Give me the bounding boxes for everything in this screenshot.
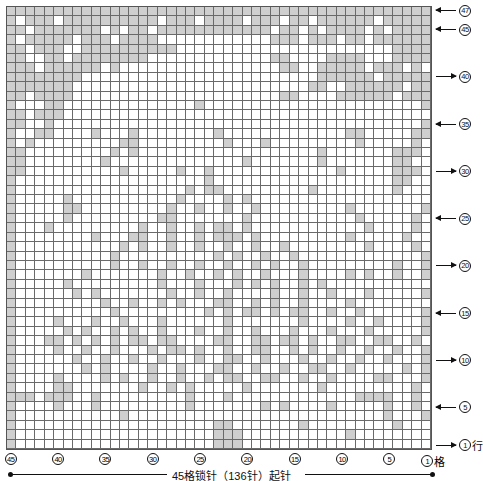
empty-cell [280,355,289,364]
filled-cell [233,16,242,25]
filled-cell [243,383,252,392]
empty-cell [337,35,346,44]
filled-cell [299,16,308,25]
filled-cell [337,346,346,355]
empty-cell [261,317,270,326]
row-label-25: 25 [436,213,471,225]
empty-cell [365,402,374,411]
empty-cell [299,63,308,72]
empty-cell [252,411,261,420]
empty-cell [45,327,54,336]
empty-cell [403,402,412,411]
empty-cell [356,167,365,176]
empty-cell [261,440,270,449]
empty-cell [92,148,101,157]
filled-cell [374,374,383,383]
empty-cell [346,167,355,176]
empty-cell [271,129,280,138]
filled-cell [7,430,16,439]
empty-cell [318,223,327,232]
filled-cell [82,16,91,25]
filled-cell [7,280,16,289]
empty-cell [195,45,204,54]
filled-cell [7,167,16,176]
empty-cell [45,346,54,355]
filled-cell [111,327,120,336]
empty-cell [403,280,412,289]
row-label-5: 5 [436,401,471,413]
filled-cell [327,7,336,16]
empty-cell [271,45,280,54]
filled-cell [337,54,346,63]
filled-cell [309,82,318,91]
empty-cell [129,289,138,298]
empty-cell [54,364,63,373]
empty-cell [384,204,393,213]
filled-cell [16,82,25,91]
empty-cell [384,167,393,176]
filled-cell [261,402,270,411]
filled-cell [26,7,35,16]
empty-cell [374,346,383,355]
empty-cell [271,411,280,420]
filled-cell [120,7,129,16]
filled-cell [139,383,148,392]
filled-cell [54,374,63,383]
empty-cell [101,26,110,35]
empty-cell [214,148,223,157]
empty-cell [393,440,402,449]
empty-cell [26,129,35,138]
filled-cell [7,440,16,449]
filled-cell [35,73,44,82]
filled-cell [139,336,148,345]
filled-cell [403,7,412,16]
row-label-40: 40 [436,71,471,83]
filled-cell [214,252,223,261]
filled-cell [327,73,336,82]
filled-cell [337,92,346,101]
empty-cell [73,129,82,138]
filled-cell [167,45,176,54]
empty-cell [101,346,110,355]
empty-cell [243,252,252,261]
empty-cell [393,364,402,373]
filled-cell [327,374,336,383]
empty-cell [26,176,35,185]
empty-cell [261,214,270,223]
empty-cell [243,280,252,289]
empty-cell [92,110,101,119]
empty-cell [261,204,270,213]
empty-cell [92,346,101,355]
empty-cell [26,186,35,195]
filled-cell [403,176,412,185]
filled-cell [299,317,308,326]
filled-cell [422,289,431,298]
empty-cell [233,346,242,355]
filled-cell [167,233,176,242]
filled-cell [16,393,25,402]
filled-cell [290,92,299,101]
empty-cell [337,355,346,364]
filled-cell [261,139,270,148]
empty-cell [243,120,252,129]
empty-cell [337,101,346,110]
empty-cell [271,327,280,336]
empty-cell [129,82,138,91]
empty-cell [195,430,204,439]
filled-cell [158,336,167,345]
filled-cell [384,402,393,411]
empty-cell [384,421,393,430]
empty-cell [186,327,195,336]
filled-cell [7,346,16,355]
empty-cell [26,440,35,449]
empty-cell [82,129,91,138]
empty-cell [252,195,261,204]
empty-cell [346,186,355,195]
empty-cell [261,242,270,251]
empty-cell [403,430,412,439]
filled-cell [365,82,374,91]
filled-cell [111,346,120,355]
empty-cell [82,92,91,101]
empty-cell [45,402,54,411]
filled-cell [64,16,73,25]
